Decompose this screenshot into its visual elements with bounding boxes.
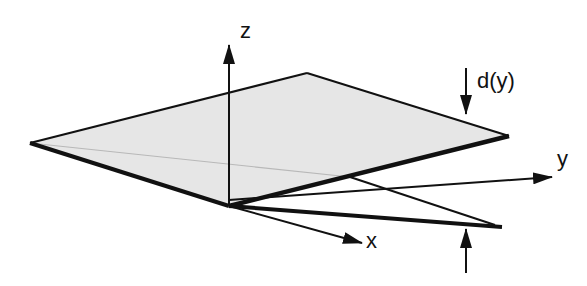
y-axis-label: y xyxy=(557,146,568,171)
deflection-label: d(y) xyxy=(477,68,515,93)
z-axis-label: z xyxy=(240,18,251,43)
diagram-canvas: z y x d(y) xyxy=(0,0,587,286)
x-axis-label: x xyxy=(366,228,377,253)
